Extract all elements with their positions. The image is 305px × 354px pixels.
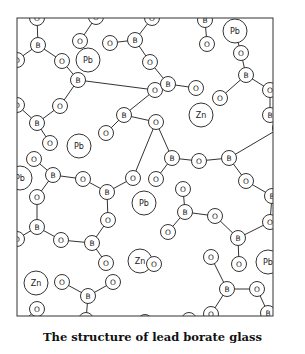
svg-text:B: B (224, 285, 229, 294)
atom-o: O (76, 172, 91, 187)
svg-text:O: O (147, 58, 153, 67)
atom-b: B (30, 116, 45, 131)
atom-o: O (55, 275, 70, 290)
svg-text:O: O (193, 84, 199, 93)
atom-o: O (89, 10, 104, 25)
atom-b: B (198, 13, 213, 28)
atom-b: B (263, 108, 278, 123)
svg-text:B: B (267, 111, 272, 120)
atom-o: O (204, 307, 219, 322)
atom-o: O (234, 46, 249, 61)
svg-text:O: O (83, 316, 89, 325)
bond-line (229, 128, 280, 158)
svg-text:Zn: Zn (135, 257, 146, 266)
svg-text:B: B (202, 16, 207, 25)
svg-text:O: O (186, 316, 192, 325)
svg-text:O: O (212, 212, 218, 221)
svg-text:B: B (85, 292, 90, 301)
atom-o: O (99, 126, 114, 141)
svg-text:B: B (132, 36, 137, 45)
svg-text:O: O (103, 129, 109, 138)
atom-o: O (213, 91, 228, 106)
svg-text:B: B (34, 119, 39, 128)
atom-b: B (31, 38, 46, 53)
svg-text:B: B (165, 80, 170, 89)
atom-o: O (263, 83, 278, 98)
svg-text:O: O (243, 177, 249, 186)
atom-b: B (231, 231, 246, 246)
atom-o: O (232, 257, 247, 272)
atom-o: O (149, 115, 164, 130)
svg-text:O: O (151, 260, 157, 269)
svg-text:Pb: Pb (230, 27, 240, 36)
svg-text:O: O (58, 236, 64, 245)
svg-text:O: O (105, 216, 111, 225)
svg-text:O: O (153, 175, 159, 184)
svg-text:O: O (103, 259, 109, 268)
bond-line (86, 320, 113, 330)
atom-b: B (71, 73, 86, 88)
atom-b: B (161, 77, 176, 92)
figure-caption: The structure of lead borate glass (0, 330, 305, 344)
atom-o: O (103, 36, 118, 51)
atom-circles: OBOOOPbOOBOOBOPbOBOOBOOBOZnBOOBOBOOPbOBP… (8, 10, 289, 343)
atom-o: O (147, 257, 162, 272)
svg-text:O: O (208, 253, 214, 262)
atom-o: O (27, 152, 42, 167)
atom-b: B (128, 33, 143, 48)
svg-text:O: O (34, 305, 40, 314)
bond-line (113, 322, 145, 330)
svg-text:O: O (236, 260, 242, 269)
atom-pb: Pb (67, 134, 91, 158)
svg-text:Zn: Zn (31, 279, 42, 288)
atom-o: O (192, 154, 207, 169)
atom-pb: Pb (8, 166, 32, 190)
svg-text:Pb: Pb (139, 199, 149, 208)
atom-b: B (30, 220, 45, 235)
atom-o: O (99, 256, 114, 271)
svg-text:O: O (107, 39, 113, 48)
svg-text:Pb: Pb (263, 258, 273, 267)
svg-text:O: O (59, 57, 65, 66)
atom-o: O (30, 190, 45, 205)
svg-text:B: B (243, 71, 248, 80)
svg-text:B: B (169, 154, 174, 163)
svg-text:O: O (267, 218, 273, 227)
svg-text:O: O (254, 285, 260, 294)
svg-text:O: O (59, 278, 65, 287)
svg-text:B: B (50, 171, 55, 180)
svg-text:B: B (89, 239, 94, 248)
svg-text:O: O (204, 40, 210, 49)
atom-o: O (53, 99, 68, 114)
atom-b: B (85, 236, 100, 251)
svg-text:O: O (93, 13, 99, 22)
atom-o: O (161, 225, 176, 240)
atom-o: O (182, 313, 197, 328)
atom-o: O (43, 136, 58, 151)
atom-o: O (149, 172, 164, 187)
svg-text:Zn: Zn (196, 111, 207, 120)
svg-text:O: O (110, 278, 116, 287)
svg-text:Pb: Pb (74, 142, 84, 151)
atom-b: B (220, 282, 235, 297)
svg-text:O: O (47, 139, 53, 148)
atom-o: O (263, 215, 278, 230)
atom-zn: Zn (24, 271, 48, 295)
atom-o: O (274, 278, 289, 293)
atom-b: B (178, 205, 193, 220)
svg-text:O: O (34, 193, 40, 202)
atom-pb: Pb (132, 191, 156, 215)
atom-o: O (55, 54, 70, 69)
svg-text:O: O (152, 86, 158, 95)
svg-text:B: B (235, 234, 240, 243)
atom-b: B (81, 289, 96, 304)
svg-text:O: O (208, 310, 214, 319)
atom-o: O (208, 209, 223, 224)
atom-b: B (165, 151, 180, 166)
atom-pb: Pb (76, 48, 100, 72)
atom-o: O (101, 213, 116, 228)
svg-text:O: O (130, 174, 136, 183)
svg-text:O: O (217, 94, 223, 103)
svg-text:O: O (80, 175, 86, 184)
atom-b: B (265, 189, 280, 204)
